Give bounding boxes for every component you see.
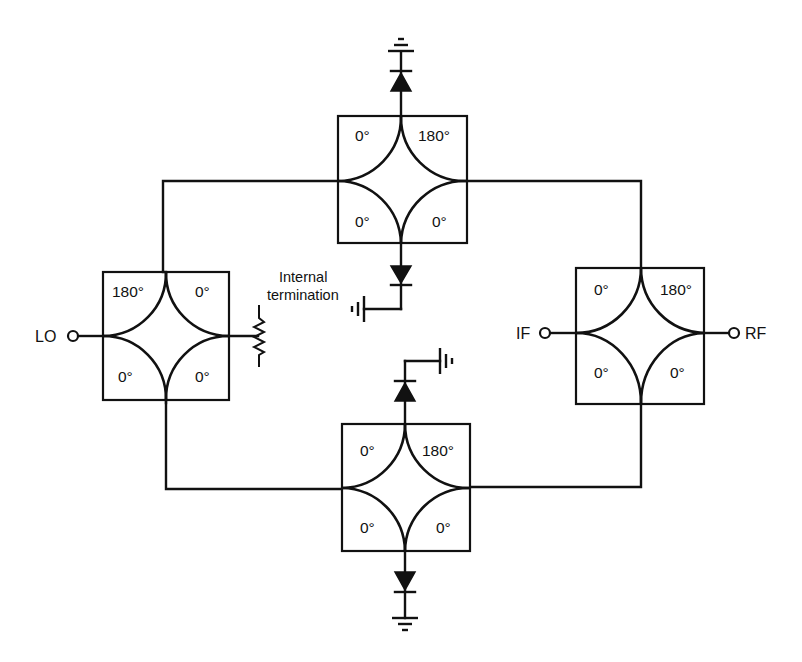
hybrid-bottom: 0° 180° 0° 0° (342, 424, 470, 551)
wire-top-to-left (163, 181, 338, 272)
phase-label: 0° (360, 442, 375, 459)
if-label: IF (516, 325, 530, 342)
lo-port: LO (35, 328, 103, 345)
lo-label: LO (35, 328, 56, 345)
lo-terminal-icon (68, 331, 78, 341)
termination-label: termination (267, 287, 339, 303)
rf-label: RF (745, 325, 767, 342)
ground-icon (392, 618, 418, 630)
rf-terminal-icon (729, 328, 739, 338)
phase-label: 180° (422, 442, 454, 459)
wire-top-to-right (467, 181, 641, 268)
hybrid-right: 0° 180° 0° 0° (576, 268, 704, 404)
termination-label: Internal (279, 269, 327, 285)
mixer-schematic: 0° 180° 0° 0° 180° 0° 0° 0° LO Internal … (0, 0, 802, 662)
phase-label: 180° (660, 281, 692, 298)
ground-icon (440, 348, 452, 374)
phase-label: 0° (594, 281, 609, 298)
phase-label: 0° (195, 368, 210, 385)
diode-icon (395, 572, 415, 590)
phase-label: 0° (594, 364, 609, 381)
phase-label: 0° (355, 127, 370, 144)
phase-label: 0° (432, 213, 447, 230)
phase-label: 0° (195, 283, 210, 300)
hybrid-top: 0° 180° 0° 0° (338, 116, 467, 243)
ground-icon (388, 39, 414, 51)
diode-icon (391, 73, 411, 91)
wire-left-to-bottom (166, 400, 342, 489)
phase-label: 0° (436, 519, 451, 536)
phase-label: 0° (670, 364, 685, 381)
diode-bottom (392, 551, 418, 630)
if-port: IF (516, 325, 576, 342)
if-terminal-icon (540, 328, 550, 338)
internal-termination: Internal termination (229, 269, 339, 366)
rf-port: RF (704, 325, 767, 342)
phase-label: 0° (360, 519, 375, 536)
ground-icon (352, 296, 364, 322)
phase-label: 180° (112, 283, 144, 300)
phase-label: 180° (418, 127, 450, 144)
hybrid-left: 180° 0° 0° 0° (103, 272, 229, 400)
phase-label: 0° (355, 213, 370, 230)
diode-bottom-upper (395, 348, 452, 424)
diode-icon (391, 266, 411, 283)
phase-label: 0° (118, 368, 133, 385)
diode-top-lower (352, 243, 411, 322)
diode-top (388, 39, 414, 116)
diode-icon (395, 383, 415, 401)
wire-right-to-bottom (470, 404, 641, 487)
